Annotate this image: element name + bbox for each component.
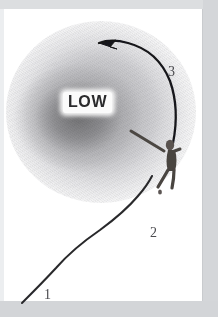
figure-left-leg	[158, 170, 168, 187]
diagram-vectors	[0, 0, 218, 317]
figure-torso	[167, 150, 177, 171]
figure-head	[166, 140, 174, 150]
weather-illustration: LOW	[0, 0, 218, 317]
stage-label-1: 1	[44, 288, 51, 302]
stage-label-3: 3	[168, 65, 175, 79]
figure-right-leg	[172, 170, 174, 188]
figure-left-arm	[131, 131, 164, 151]
figure-foot-speck	[158, 189, 162, 194]
approach-track-line	[22, 176, 152, 303]
stage-label-2: 2	[150, 226, 157, 240]
counterclockwise-orbit-arrow	[99, 40, 176, 143]
figure-frame: LOW	[0, 0, 218, 317]
